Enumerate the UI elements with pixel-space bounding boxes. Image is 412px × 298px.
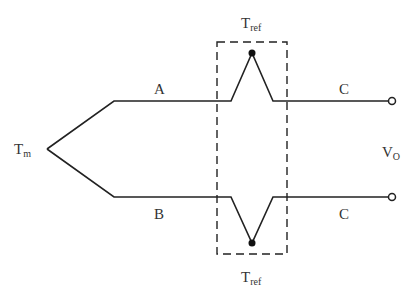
label-vo: VO: [382, 145, 400, 162]
label-wire-a: A: [154, 82, 165, 97]
reference-junction-box: [217, 42, 287, 254]
terminal-bottom: [389, 194, 396, 201]
circuit-drawing: [0, 0, 412, 298]
label-tm: Tm: [14, 142, 31, 159]
terminal-top: [389, 98, 396, 105]
label-lead-c-top: C: [339, 82, 349, 97]
label-tref-top: Tref: [241, 16, 261, 33]
label-wire-b: B: [154, 207, 164, 222]
ref-junction-dot-bottom: [249, 240, 256, 247]
wire-a: [47, 53, 390, 149]
ref-junction-dot-top: [249, 50, 256, 57]
wire-b: [47, 149, 390, 243]
label-lead-c-bottom: C: [339, 207, 349, 222]
label-tref-bottom: Tref: [241, 270, 261, 287]
thermocouple-diagram: Tm Tref Tref VO A B C C: [0, 0, 412, 298]
